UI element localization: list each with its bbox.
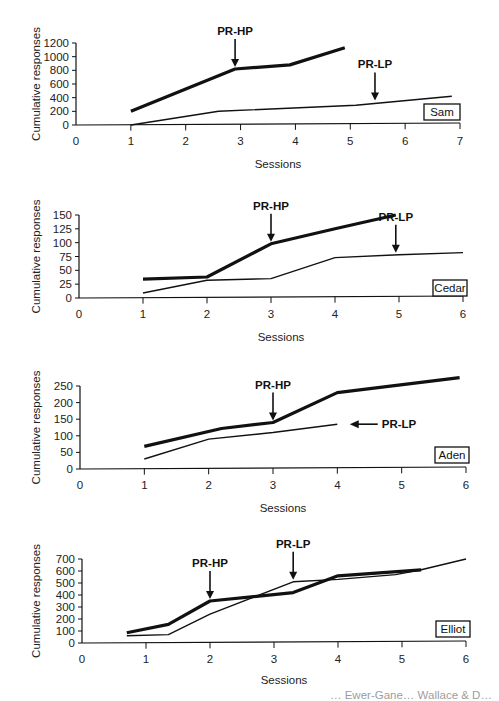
- annotation-label: PR-LP: [382, 418, 417, 430]
- series-thick-line: [144, 378, 459, 447]
- arrow-left-icon: [350, 420, 359, 428]
- y-tick-label: 200: [50, 105, 69, 117]
- x-tick-label: 2: [204, 308, 210, 320]
- x-tick-label: 2: [207, 653, 213, 665]
- figure: 02004006008001000120001234567SessionsCum…: [0, 0, 499, 701]
- x-tick-label: 5: [399, 653, 405, 665]
- series-thick-line: [143, 215, 396, 279]
- chart-panel-elliot: 01002003004005006007000123456SessionsCum…: [30, 538, 470, 686]
- series-thick-line: [131, 48, 345, 112]
- y-axis-title: Cumulative responses: [30, 199, 42, 313]
- x-tick-label: 6: [463, 479, 469, 491]
- y-tick-label: 0: [67, 463, 73, 475]
- x-tick-label: 0: [79, 653, 85, 665]
- y-tick-label: 125: [53, 223, 72, 235]
- x-tick-label: 4: [334, 479, 341, 491]
- x-tick-label: 2: [183, 135, 189, 147]
- x-tick-label: 3: [268, 308, 274, 320]
- x-tick-label: 0: [77, 479, 83, 491]
- x-axis-title: Sessions: [261, 674, 308, 686]
- y-tick-label: 75: [59, 251, 72, 263]
- x-tick-label: 4: [332, 308, 339, 320]
- annotation-label: PR-HP: [217, 25, 253, 37]
- x-axis-title: Sessions: [258, 331, 305, 343]
- annotation-label: PR-HP: [253, 200, 289, 212]
- y-tick-label: 250: [54, 380, 73, 392]
- subject-label: Sam: [430, 106, 454, 118]
- series-thin-line: [144, 424, 337, 459]
- y-tick-label: 0: [69, 637, 75, 649]
- x-tick-label: 1: [128, 135, 134, 147]
- y-tick-label: 600: [50, 78, 69, 90]
- y-tick-label: 600: [56, 565, 75, 577]
- x-axis-title: Sessions: [255, 158, 302, 170]
- series-thin-line: [131, 96, 452, 125]
- x-tick-label: 6: [463, 653, 469, 665]
- annotation-label: PR-HP: [255, 379, 291, 391]
- y-axis-title: Cumulative responses: [30, 27, 42, 141]
- x-tick-label: 2: [205, 479, 211, 491]
- y-tick-label: 200: [54, 397, 73, 409]
- x-tick-label: 0: [76, 308, 82, 320]
- y-tick-label: 700: [56, 553, 75, 565]
- x-tick-label: 5: [396, 308, 402, 320]
- x-tick-label: 3: [270, 479, 276, 491]
- x-tick-label: 3: [237, 135, 243, 147]
- series-thick-line: [127, 570, 421, 633]
- x-axis-title: Sessions: [260, 502, 307, 514]
- series-thin-line: [143, 253, 463, 293]
- x-tick-label: 6: [402, 135, 408, 147]
- y-tick-label: 100: [56, 625, 75, 637]
- subject-label: Elliot: [441, 623, 467, 635]
- x-tick-label: 1: [143, 653, 149, 665]
- x-tick-label: 6: [460, 308, 466, 320]
- y-tick-label: 400: [56, 589, 75, 601]
- y-tick-label: 100: [53, 237, 72, 249]
- x-tick-label: 3: [271, 653, 277, 665]
- y-tick-label: 300: [56, 601, 75, 613]
- x-tick-label: 5: [347, 135, 353, 147]
- y-tick-label: 0: [66, 292, 72, 304]
- x-tick-label: 4: [292, 135, 299, 147]
- y-tick-label: 25: [59, 278, 72, 290]
- x-tick-label: 1: [140, 308, 146, 320]
- annotation-label: PR-LP: [358, 58, 393, 70]
- y-axis-title: Cumulative responses: [30, 544, 42, 658]
- chart-panel-cedar: 02550751001251500123456SessionsCumulativ…: [30, 199, 467, 343]
- y-tick-label: 1000: [43, 51, 69, 63]
- series-thin-line: [127, 559, 466, 636]
- chart-panel-sam: 02004006008001000120001234567SessionsCum…: [30, 25, 463, 170]
- y-tick-label: 200: [56, 613, 75, 625]
- subject-label: Aden: [439, 449, 466, 461]
- chart-panel-aden: 0501001502002500123456SessionsCumulative…: [30, 370, 469, 514]
- y-tick-label: 0: [63, 119, 69, 131]
- y-tick-label: 50: [59, 264, 72, 276]
- x-tick-label: 7: [457, 135, 463, 147]
- annotation-label: PR-HP: [192, 557, 228, 569]
- y-tick-label: 150: [53, 209, 72, 221]
- x-tick-label: 5: [398, 479, 404, 491]
- y-tick-label: 50: [60, 446, 73, 458]
- y-tick-label: 1200: [43, 37, 69, 49]
- y-tick-label: 100: [54, 430, 73, 442]
- annotation-label: PR-LP: [276, 538, 311, 550]
- x-tick-label: 4: [335, 653, 342, 665]
- y-tick-label: 150: [54, 413, 73, 425]
- subject-label: Cedar: [434, 282, 465, 294]
- y-tick-label: 800: [50, 64, 69, 76]
- x-tick-label: 0: [73, 135, 79, 147]
- x-tick-label: 1: [141, 479, 147, 491]
- caption-fragment: … Ewer-Gane… Wallace & D…: [330, 689, 492, 701]
- y-tick-label: 400: [50, 92, 69, 104]
- y-axis-title: Cumulative responses: [30, 370, 42, 484]
- annotation-label: PR-LP: [379, 211, 414, 223]
- y-tick-label: 500: [56, 577, 75, 589]
